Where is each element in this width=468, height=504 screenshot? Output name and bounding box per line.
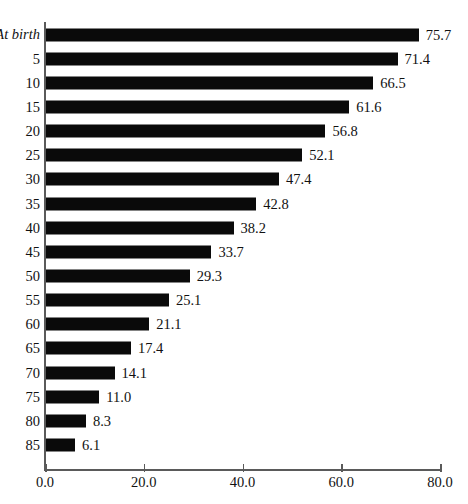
bar-value-label: 66.5 [380,74,405,91]
bar [46,28,419,41]
bar-row: 5525.1 [0,288,468,312]
bar-row: 7511.0 [0,385,468,409]
x-axis-tick-label: 60.0 [329,474,354,491]
bar-row: 1066.5 [0,71,468,95]
bar-row: 1561.6 [0,95,468,119]
bar-category-label: 80 [26,414,41,429]
bar-row: 856.1 [0,433,468,457]
bar-category-label: 5 [33,51,40,66]
x-axis-tick [243,464,245,472]
bar-value-label: 75.7 [426,26,451,43]
bar-value-label: 29.3 [197,268,222,285]
bar [46,76,373,89]
bar-value-label: 6.1 [82,437,100,454]
bar-value-label: 42.8 [263,195,288,212]
bar-category-label: 35 [26,196,41,211]
bar-value-label: 25.1 [176,292,201,309]
x-axis-tick-label: 20.0 [131,474,156,491]
bar-row: 571.4 [0,47,468,71]
bar [46,197,256,210]
bar-category-label: 15 [26,100,41,115]
bar-value-label: 52.1 [309,147,334,164]
bar-value-label: 56.8 [332,123,357,140]
bar-row: 808.3 [0,409,468,433]
bar-value-label: 8.3 [93,412,111,429]
bar-value-label: 61.6 [356,98,381,115]
bar-category-label: 55 [26,293,41,308]
bar-value-label: 38.2 [241,219,266,236]
bar-category-label: 75 [26,389,41,404]
bar-value-label: 33.7 [218,243,243,260]
bar [46,149,302,162]
bar [46,221,234,234]
bar-value-label: 21.1 [156,316,181,333]
bar-row: 4533.7 [0,240,468,264]
bar-category-label: 25 [26,148,41,163]
bar-value-label: 71.4 [405,50,430,67]
bar [46,390,99,403]
bar-row: 6021.1 [0,312,468,336]
bar-row: 2056.8 [0,119,468,143]
x-axis-tick [144,464,146,472]
bar-category-label: 85 [26,438,41,453]
bar-value-label: 47.4 [286,171,311,188]
bar-category-label: 60 [26,317,41,332]
bar-row: 3047.4 [0,167,468,191]
bar-row: At birth75.7 [0,23,468,47]
bar [46,245,211,258]
x-axis-tick [341,464,343,472]
bar [46,366,115,379]
bar [46,294,169,307]
bar [46,173,279,186]
bar-chart: At birth75.7571.41066.51561.62056.82552.… [0,0,468,504]
bar-category-label: 40 [26,220,41,235]
bar-row: 7014.1 [0,361,468,385]
x-axis-tick [45,464,47,472]
bar [46,125,325,138]
bar-category-label: 70 [26,365,41,380]
x-axis-tick-label: 80.0 [427,474,452,491]
bar [46,439,75,452]
x-axis-tick [440,464,442,472]
bar [46,52,398,65]
bar-category-label: 65 [26,341,41,356]
bar-row: 3542.8 [0,192,468,216]
bar-category-label: 45 [26,245,41,260]
bars-layer: At birth75.7571.41066.51561.62056.82552.… [0,0,468,504]
bar-row: 2552.1 [0,143,468,167]
bar-category-label: 50 [26,269,41,284]
bar [46,318,149,331]
bar-category-label: At birth [0,27,40,42]
bar-category-label: 30 [26,172,41,187]
bar-row: 5029.3 [0,264,468,288]
x-axis-tick-label: 0.0 [36,474,54,491]
plot-area: At birth75.7571.41066.51561.62056.82552.… [0,0,468,504]
bar-value-label: 11.0 [106,388,131,405]
bar-row: 6517.4 [0,336,468,360]
bar [46,100,349,113]
bar [46,342,131,355]
bar [46,414,86,427]
x-axis-tick-label: 40.0 [230,474,255,491]
bar-value-label: 14.1 [122,364,147,381]
bar-category-label: 20 [26,124,41,139]
bar-category-label: 10 [26,75,41,90]
bar-row: 4038.2 [0,216,468,240]
bar-value-label: 17.4 [138,340,163,357]
bar [46,270,190,283]
